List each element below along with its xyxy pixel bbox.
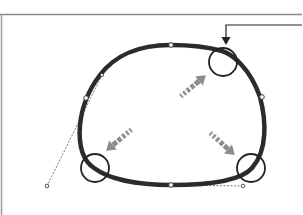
direction-arrow-up-right	[177, 71, 210, 101]
anchor-point[interactable]	[169, 43, 174, 48]
anchor-point[interactable]	[260, 95, 265, 100]
handle-endpoint[interactable]	[45, 184, 49, 188]
control-point[interactable]	[100, 73, 103, 76]
handle-endpoint[interactable]	[241, 184, 245, 188]
anchor-point[interactable]	[84, 96, 89, 101]
direction-arrow-down-right	[206, 128, 239, 159]
direction-arrow-down-left	[102, 125, 135, 155]
anchor-point[interactable]	[169, 183, 174, 188]
callout-arrowhead	[222, 37, 231, 45]
callout-arrow	[222, 25, 303, 45]
path-editing-diagram: Closed path with anchor points and handl…	[0, 0, 302, 215]
